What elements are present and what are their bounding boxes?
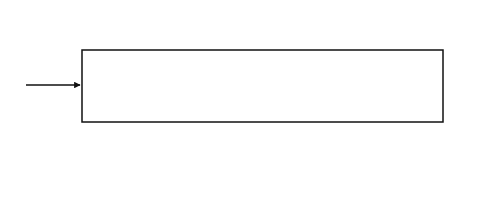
register-body xyxy=(82,50,443,122)
flip-flop-register-diagram xyxy=(0,0,497,217)
